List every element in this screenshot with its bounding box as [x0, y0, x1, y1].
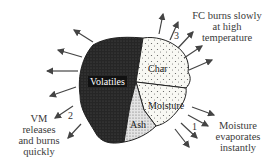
annotation-stage2-line1: VM — [15, 113, 63, 124]
annotation-stage1-line1: Moisture — [208, 120, 268, 131]
label-volatiles: Volatiles — [88, 76, 127, 87]
annotation-stage1-line3: instantly — [208, 142, 268, 153]
stage-number-3: 3 — [174, 30, 179, 41]
annotation-stage2-line2: releases — [15, 124, 63, 135]
annotation-stage2-line4: quickly — [15, 146, 63, 157]
annotation-stage3: FC burns slowly at high temperature — [187, 10, 267, 43]
annotation-stage3-line2: at high — [187, 21, 267, 32]
stage-number-2: 2 — [68, 110, 73, 121]
annotation-stage2: VM releases and burns quickly — [15, 113, 63, 157]
annotation-stage2-line3: and burns — [15, 135, 63, 146]
annotation-stage1: Moisture evaporates instantly — [208, 120, 268, 153]
label-moisture: Moisture — [148, 100, 184, 111]
annotation-stage1-line2: evaporates — [208, 131, 268, 142]
stage-number-1: 1 — [192, 121, 197, 132]
label-ash: Ash — [130, 119, 146, 130]
annotation-stage3-line3: temperature — [187, 32, 267, 43]
annotation-stage3-line1: FC burns slowly — [187, 10, 267, 21]
label-char: Char — [148, 63, 167, 74]
